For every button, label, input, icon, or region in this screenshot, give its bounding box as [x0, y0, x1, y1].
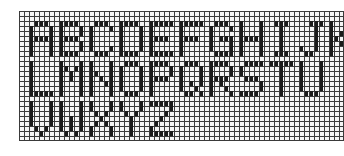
ink-pixel: [130, 91, 133, 96]
ink-pixel: [50, 51, 53, 56]
ink-pixel: [95, 71, 98, 76]
ink-pixel: [185, 36, 188, 41]
ink-pixel: [320, 86, 323, 91]
ink-pixel: [75, 36, 78, 41]
ink-pixel: [340, 31, 343, 36]
ink-pixel: [165, 36, 168, 41]
ink-pixel: [270, 61, 273, 66]
ink-pixel: [90, 46, 93, 51]
ink-pixel: [160, 61, 163, 66]
ink-pixel: [120, 106, 123, 111]
ink-pixel: [220, 81, 223, 86]
ink-pixel: [160, 101, 163, 106]
ink-pixel: [130, 21, 133, 26]
ink-pixel: [160, 21, 163, 26]
ink-pixel: [255, 36, 258, 41]
ink-pixel: [95, 51, 98, 56]
ink-pixel: [225, 61, 228, 66]
ink-pixel: [300, 86, 303, 91]
ink-pixel: [140, 106, 143, 111]
ink-pixel: [65, 131, 68, 136]
ink-pixel: [275, 51, 278, 56]
ink-pixel: [255, 76, 258, 81]
ink-pixel: [95, 121, 98, 126]
ink-pixel: [35, 126, 38, 131]
ink-pixel: [105, 81, 108, 86]
ink-pixel: [100, 116, 103, 121]
ink-pixel: [230, 26, 233, 31]
ink-pixel: [225, 76, 228, 81]
ink-pixel: [135, 111, 138, 116]
ink-pixel: [245, 76, 248, 81]
ink-pixel: [30, 121, 33, 126]
ink-pixel: [240, 91, 243, 96]
ink-pixel: [65, 66, 68, 71]
ink-pixel: [90, 106, 93, 111]
ink-pixel: [80, 126, 83, 131]
ink-pixel: [215, 21, 218, 26]
ink-pixel: [250, 76, 253, 81]
ink-pixel: [155, 21, 158, 26]
ink-pixel: [225, 86, 228, 91]
ink-pixel: [195, 86, 198, 91]
ink-pixel: [200, 81, 203, 86]
ink-pixel: [110, 46, 113, 51]
ink-pixel: [65, 51, 68, 56]
ink-pixel: [260, 86, 263, 91]
ink-pixel: [170, 71, 173, 76]
ink-pixel: [150, 91, 153, 96]
ink-pixel: [140, 86, 143, 91]
ink-pixel: [245, 36, 248, 41]
ink-pixel: [150, 131, 153, 136]
row-label: VWXYZ: [19, 11, 20, 12]
ink-pixel: [180, 51, 183, 56]
ink-pixel: [60, 91, 63, 96]
ink-pixel: [190, 21, 193, 26]
ink-pixel: [225, 36, 228, 41]
ink-pixel: [190, 81, 193, 86]
ink-pixel: [260, 61, 263, 66]
ink-pixel: [195, 36, 198, 41]
ink-pixel: [230, 91, 233, 96]
ink-pixel: [60, 51, 63, 56]
ink-pixel: [200, 21, 203, 26]
ink-pixel: [215, 76, 218, 81]
ink-pixel: [255, 61, 258, 66]
ink-pixel: [315, 91, 318, 96]
ink-pixel: [105, 21, 108, 26]
ink-pixel: [170, 106, 173, 111]
ink-pixel: [40, 21, 43, 26]
ink-pixel: [165, 131, 168, 136]
ink-pixel: [250, 91, 253, 96]
ink-pixel: [95, 21, 98, 26]
ink-pixel: [305, 91, 308, 96]
ink-pixel: [130, 51, 133, 56]
ink-pixel: [135, 61, 138, 66]
ink-pixel: [75, 131, 78, 136]
ink-pixel: [280, 51, 283, 56]
ink-pixel: [220, 51, 223, 56]
ink-pixel: [75, 66, 78, 71]
ink-pixel: [165, 51, 168, 56]
ink-pixel: [170, 21, 173, 26]
ink-pixel: [170, 51, 173, 56]
ink-pixel: [160, 76, 163, 81]
ink-pixel: [240, 51, 243, 56]
ink-pixel: [140, 46, 143, 51]
ink-pixel: [75, 51, 78, 56]
ink-pixel: [40, 36, 43, 41]
ink-pixel: [285, 51, 288, 56]
ink-pixel: [215, 51, 218, 56]
ink-pixel: [110, 131, 113, 136]
ink-pixel: [160, 51, 163, 56]
ink-pixel: [125, 111, 128, 116]
ink-pixel: [135, 21, 138, 26]
ink-pixel: [110, 91, 113, 96]
ink-pixel: [275, 61, 278, 66]
ink-pixel: [70, 36, 73, 41]
ink-pixel: [120, 51, 123, 56]
grid-paper: ABCDEFGHIJK LMNOPQRSTU VWXYZ: [19, 11, 344, 141]
ink-pixel: [135, 51, 138, 56]
ink-pixel: [190, 61, 193, 66]
ink-pixel: [30, 91, 33, 96]
